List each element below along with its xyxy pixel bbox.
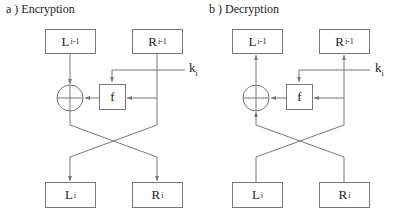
box-label: L: [252, 187, 260, 203]
encryption-title: a ) Encryption: [6, 2, 75, 17]
box-label: R: [339, 187, 348, 203]
function-f-box: f: [99, 84, 126, 110]
function-f-box: f: [286, 84, 313, 110]
box-label: L: [249, 34, 257, 50]
key-label: ki: [375, 60, 384, 78]
box-label: L: [62, 34, 70, 50]
box-label: R: [335, 34, 344, 50]
box-l-prev: Li-1: [45, 29, 96, 54]
box-r-prev: Ri-1: [319, 29, 370, 54]
key-label: ki: [189, 60, 198, 78]
box-l-next: Li: [45, 182, 96, 208]
box-label: R: [152, 187, 161, 203]
box-l-prev: Li-1: [232, 29, 283, 54]
box-label: R: [148, 34, 157, 50]
box-l-next: Li: [232, 182, 283, 208]
box-r-prev: Ri-1: [132, 29, 183, 54]
box-r-next: Ri: [319, 182, 370, 208]
box-label: L: [65, 187, 73, 203]
box-r-next: Ri: [132, 182, 183, 208]
decryption-title: b ) Decryption: [209, 2, 279, 17]
